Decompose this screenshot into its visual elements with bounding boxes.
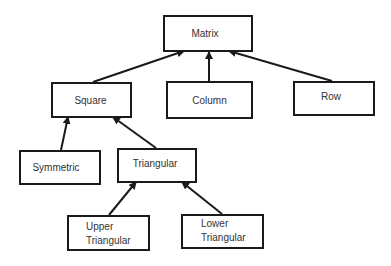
edge-triangular-square xyxy=(113,117,156,148)
node-label-line2: Triangular xyxy=(86,235,131,246)
node-label-line2: Triangular xyxy=(201,232,246,243)
node-matrix: Matrix xyxy=(163,15,253,52)
node-label-line1: Lower xyxy=(201,218,228,229)
node-label: Matrix xyxy=(191,28,218,39)
node-label: Row xyxy=(321,91,341,102)
edge-row-matrix xyxy=(229,51,332,81)
edge-square-matrix xyxy=(93,51,184,82)
node-lower-triangular: Lower Triangular xyxy=(181,214,264,249)
edge-lower-triangular xyxy=(182,182,222,214)
node-label: Column xyxy=(192,95,226,106)
edge-symmetric-square xyxy=(61,117,68,150)
node-label-line1: Upper xyxy=(86,221,113,232)
node-square: Square xyxy=(51,82,132,118)
node-label: Square xyxy=(74,95,106,106)
node-triangular: Triangular xyxy=(117,148,197,183)
node-label: Triangular xyxy=(133,158,178,169)
node-label: Symmetric xyxy=(32,162,79,173)
node-symmetric: Symmetric xyxy=(19,150,101,185)
node-row: Row xyxy=(293,81,375,116)
node-upper-triangular: Upper Triangular xyxy=(67,215,150,251)
edge-upper-triangular xyxy=(109,182,136,215)
node-column: Column xyxy=(166,81,253,119)
